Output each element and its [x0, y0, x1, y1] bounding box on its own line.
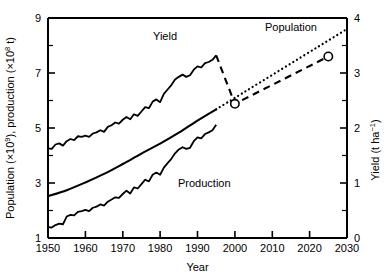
- left-tick-label-7: 7: [35, 67, 41, 79]
- left-axis-title-part1: Population (×10: [4, 142, 16, 219]
- x-tick-labels: 1950 1960 1970 1980 1990 2000 2010 2020 …: [36, 242, 359, 254]
- left-axis-ticks: [48, 46, 55, 211]
- chart-figure: 9 7 5 3 1 4 3 2 1 0: [0, 0, 385, 279]
- x-tick-label-2020: 2020: [297, 242, 321, 254]
- series-label-population: Population: [265, 21, 317, 33]
- x-tick-label-1970: 1970: [111, 242, 135, 254]
- series-label-production: Production: [178, 177, 231, 189]
- x-tick-label-2010: 2010: [260, 242, 284, 254]
- x-tick-label-1990: 1990: [185, 242, 209, 254]
- left-tick-label-3: 3: [35, 177, 41, 189]
- left-tick-label-5: 5: [35, 122, 41, 134]
- right-tick-label-1: 1: [354, 177, 360, 189]
- x-tick-label-2000: 2000: [223, 242, 247, 254]
- data-series-layer: [48, 29, 347, 228]
- left-tick-label-9: 9: [35, 12, 41, 24]
- right-tick-label-4: 4: [354, 12, 360, 24]
- right-axis-title: Yield (t ha−1): [368, 119, 381, 180]
- left-axis-title: Population (×109), production (×108 t): [3, 37, 16, 219]
- right-axis-ticks: [340, 46, 347, 211]
- series-path-yield: [48, 55, 216, 148]
- left-tick-labels: 9 7 5 3 1: [35, 12, 41, 244]
- x-tick-label-1950: 1950: [36, 242, 60, 254]
- left-axis-title-part2: ), production (×10: [4, 51, 16, 138]
- right-tick-labels: 4 3 2 1 0: [354, 12, 360, 244]
- right-axis-title-sup1: −1: [368, 123, 377, 132]
- data-point-marker: [231, 100, 239, 108]
- x-axis-ticks: [85, 231, 309, 238]
- right-tick-label-2: 2: [354, 122, 360, 134]
- series-label-yield: Yield: [153, 30, 177, 42]
- x-axis-title: Year: [186, 261, 209, 273]
- right-tick-label-3: 3: [354, 67, 360, 79]
- chart-canvas: 9 7 5 3 1 4 3 2 1 0: [0, 0, 385, 279]
- data-point-marker: [324, 52, 332, 60]
- left-axis-title-part3: t): [4, 37, 16, 47]
- series-path-population-projection: [216, 29, 347, 109]
- right-axis-title-part1: Yield (t ha: [369, 131, 381, 181]
- right-axis-title-part2: ): [369, 119, 381, 123]
- series-path-yield-projection: [216, 55, 328, 103]
- x-tick-label-1960: 1960: [73, 242, 97, 254]
- plot-frame: [48, 18, 347, 238]
- x-tick-label-2030: 2030: [335, 242, 359, 254]
- x-tick-label-1980: 1980: [148, 242, 172, 254]
